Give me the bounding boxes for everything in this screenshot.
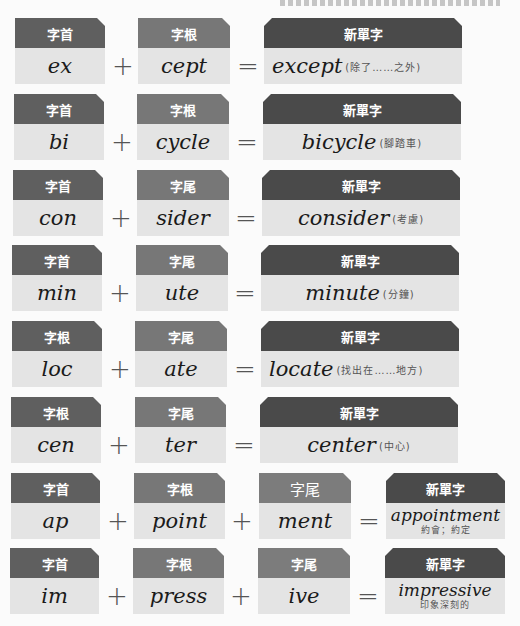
part-label: 字首 <box>15 18 105 48</box>
new-word-box: 新單字 consider (考慮) <box>262 170 460 236</box>
new-word: bicycle <box>302 130 377 154</box>
word-formula-row: 字首 ex + 字根 cept = 新單字 except (除了……之外) <box>0 18 520 84</box>
new-word-body: locate (找出在……地方) <box>261 351 459 387</box>
suffix-box: 字尾 ate <box>135 321 227 387</box>
cropped-header-text <box>280 0 500 6</box>
new-word-body: appointment 約會；約定 <box>386 503 505 539</box>
new-word-label: 新單字 <box>263 94 461 124</box>
part-label: 字尾 <box>137 170 229 200</box>
word-formula-row: 字首 ap + 字根 point + 字尾 ment = 新單字 appoint… <box>0 473 520 539</box>
new-word: impressive <box>398 582 491 599</box>
part-text: ate <box>135 351 227 387</box>
part-text: ive <box>258 578 350 614</box>
part-text: press <box>133 578 224 614</box>
prefix-box: 字首 ap <box>11 473 100 539</box>
new-word-label: 新單字 <box>385 548 505 578</box>
plus-sign: + <box>111 130 133 154</box>
new-word: consider <box>298 206 389 230</box>
part-label: 字根 <box>11 397 101 427</box>
new-word-meaning: (中心) <box>379 438 411 453</box>
new-word-box: 新單字 appointment 約會；約定 <box>386 473 505 539</box>
equals-sign: = <box>357 584 379 608</box>
plus-sign: + <box>112 54 134 78</box>
part-label: 字尾 <box>258 548 350 578</box>
part-text: con <box>13 200 103 236</box>
word-formula-row: 字根 loc + 字尾 ate = 新單字 locate (找出在……地方) <box>0 321 520 387</box>
new-word-meaning: 印象深刻的 <box>420 601 470 610</box>
part-text: bi <box>14 124 104 160</box>
part-text: point <box>134 503 225 539</box>
plus-sign: + <box>107 509 129 533</box>
root-box: 字根 cycle <box>137 94 229 160</box>
word-formula-row: 字首 im + 字根 press + 字尾 ive = 新單字 impressi… <box>0 548 520 614</box>
suffix-box: 字尾 sider <box>137 170 229 236</box>
new-word-meaning: (分鐘) <box>383 286 415 301</box>
new-word-body: consider (考慮) <box>262 200 460 236</box>
prefix-box: 字首 bi <box>14 94 104 160</box>
equals-sign: = <box>235 206 257 230</box>
plus-sign: + <box>110 206 132 230</box>
equals-sign: = <box>234 281 256 305</box>
part-text: sider <box>137 200 229 236</box>
plus-sign: + <box>230 584 252 608</box>
new-word-box: 新單字 locate (找出在……地方) <box>261 321 459 387</box>
new-word: locate <box>269 357 334 381</box>
new-word-label: 新單字 <box>261 321 459 351</box>
part-label: 字根 <box>12 321 102 351</box>
part-label: 字尾 <box>136 245 228 275</box>
plus-sign: + <box>231 509 253 533</box>
prefix-box: 字首 im <box>10 548 99 614</box>
new-word-box: 新單字 impressive 印象深刻的 <box>385 548 505 614</box>
part-text: min <box>12 275 102 311</box>
part-label: 字尾 <box>135 397 226 427</box>
new-word: minute <box>305 281 380 305</box>
new-word-meaning: (找出在……地方) <box>337 362 424 377</box>
root-box: 字根 point <box>134 473 225 539</box>
new-word-box: 新單字 minute (分鐘) <box>261 245 459 311</box>
root-box: 字根 press <box>133 548 224 614</box>
suffix-box: 字尾 ment <box>259 473 351 539</box>
new-word-body: minute (分鐘) <box>261 275 459 311</box>
equals-sign: = <box>236 130 258 154</box>
part-label: 字根 <box>137 94 229 124</box>
new-word: except <box>272 54 342 78</box>
new-word-meaning: (考慮) <box>392 211 424 226</box>
part-label: 字首 <box>11 473 100 503</box>
word-formula-row: 字首 con + 字尾 sider = 新單字 consider (考慮) <box>0 170 520 236</box>
suffix-box: 字尾 ute <box>136 245 228 311</box>
part-label: 字尾 <box>259 473 351 503</box>
new-word-body: center (中心) <box>260 427 458 463</box>
part-text: im <box>10 578 99 614</box>
part-label: 字根 <box>134 473 225 503</box>
new-word-box: 新單字 bicycle (腳踏車) <box>263 94 461 160</box>
part-text: loc <box>12 351 102 387</box>
equals-sign: = <box>233 433 255 457</box>
part-label: 字首 <box>13 170 103 200</box>
new-word-body: except (除了……之外) <box>264 48 462 84</box>
plus-sign: + <box>106 584 128 608</box>
root-box: 字根 cept <box>138 18 230 84</box>
prefix-box: 字首 con <box>13 170 103 236</box>
part-text: ute <box>136 275 228 311</box>
part-label: 字首 <box>12 245 102 275</box>
new-word: center <box>307 433 376 457</box>
part-text: cycle <box>137 124 229 160</box>
part-text: ap <box>11 503 100 539</box>
root-box: 字根 loc <box>12 321 102 387</box>
part-text: cept <box>138 48 230 84</box>
new-word-body: impressive 印象深刻的 <box>385 578 505 614</box>
new-word-meaning: (腳踏車) <box>379 135 422 150</box>
part-text: cen <box>11 427 101 463</box>
new-word-label: 新單字 <box>261 245 459 275</box>
prefix-box: 字首 min <box>12 245 102 311</box>
word-formula-row: 字首 bi + 字根 cycle = 新單字 bicycle (腳踏車) <box>0 94 520 160</box>
plus-sign: + <box>109 357 131 381</box>
new-word-meaning: 約會；約定 <box>421 526 471 535</box>
part-text: ex <box>15 48 105 84</box>
new-word-label: 新單字 <box>264 18 462 48</box>
equals-sign: = <box>234 357 256 381</box>
part-label: 字根 <box>133 548 224 578</box>
part-label: 字首 <box>14 94 104 124</box>
plus-sign: + <box>109 281 131 305</box>
new-word: appointment <box>391 507 500 524</box>
